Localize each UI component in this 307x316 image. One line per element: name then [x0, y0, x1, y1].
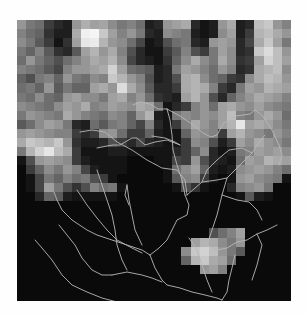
river-line	[97, 170, 127, 270]
river-line	[252, 234, 262, 280]
river-line	[227, 135, 265, 178]
map-frame	[17, 20, 291, 301]
river-line	[150, 255, 222, 300]
river-line	[35, 240, 132, 301]
river-line	[202, 148, 252, 182]
river-line	[167, 109, 255, 137]
river-line	[207, 225, 277, 250]
river-line	[222, 195, 262, 220]
river-line	[59, 225, 112, 275]
river-network-overlay	[17, 20, 291, 301]
river-line	[150, 195, 189, 255]
river-line	[222, 255, 235, 300]
river-line	[187, 178, 227, 195]
river-line	[207, 178, 227, 245]
river-line	[167, 109, 185, 195]
river-line	[133, 102, 167, 109]
river-line	[255, 110, 282, 165]
river-line	[112, 272, 162, 282]
river-line	[80, 130, 187, 195]
river-line	[77, 190, 142, 253]
river-line	[127, 185, 142, 245]
